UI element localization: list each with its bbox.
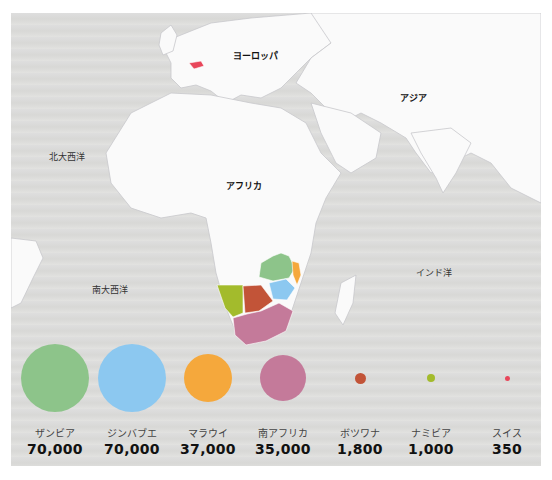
legend-item-botswana: ボツワナ 1,800	[320, 343, 400, 457]
bubble-namibia	[427, 374, 435, 382]
legend-value: 1,800	[320, 441, 400, 457]
legend-item-zimbabwe: ジンバブエ 70,000	[92, 343, 172, 457]
namibia-shape	[217, 285, 243, 317]
legend-name: スイス	[467, 425, 541, 440]
legend-item-switzerland: スイス 350	[467, 343, 541, 457]
legend-item-namibia: ナミビア 1,000	[391, 343, 471, 457]
label-asia: アジア	[400, 91, 427, 104]
bubble-south-africa	[260, 355, 306, 401]
india-landmass	[411, 128, 471, 193]
legend-item-south-africa: 南アフリカ 35,000	[243, 343, 323, 457]
bubble-malawi	[184, 354, 232, 402]
bubble-zimbabwe	[98, 344, 166, 412]
label-indian-ocean: インド洋	[416, 266, 452, 279]
legend-value: 70,000	[92, 441, 172, 457]
map-panel: ヨーロッパ アジア アフリカ 北大西洋 南大西洋 インド洋 ザンビア 70,00…	[11, 13, 541, 466]
legend-name: 南アフリカ	[243, 425, 323, 440]
legend-value: 350	[467, 441, 541, 457]
legend-item-malawi: マラウイ 37,000	[168, 343, 248, 457]
madagascar-landmass	[335, 275, 356, 325]
legend-name: ナミビア	[391, 425, 471, 440]
legend-item-zambia: ザンビア 70,000	[15, 343, 95, 457]
label-europe: ヨーロッパ	[233, 49, 278, 62]
label-africa: アフリカ	[226, 179, 262, 192]
legend-name: ジンバブエ	[92, 425, 172, 440]
bubble-zambia	[21, 344, 89, 412]
label-south-atlantic: 南大西洋	[92, 283, 128, 296]
south-america-landmass	[11, 238, 43, 308]
legend-name: マラウイ	[168, 425, 248, 440]
legend-name: ザンビア	[15, 425, 95, 440]
legend-value: 1,000	[391, 441, 471, 457]
label-north-atlantic: 北大西洋	[49, 150, 85, 163]
africa-landmass	[106, 93, 341, 343]
legend-value: 70,000	[15, 441, 95, 457]
legend-value: 37,000	[168, 441, 248, 457]
legend-name: ボツワナ	[320, 425, 400, 440]
bubble-botswana	[355, 373, 366, 384]
legend-value: 35,000	[243, 441, 323, 457]
bubble-switzerland	[505, 376, 510, 381]
